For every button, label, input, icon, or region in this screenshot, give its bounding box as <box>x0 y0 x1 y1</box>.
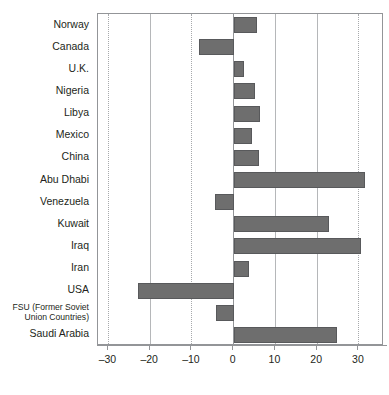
category-label: Saudi Arabia <box>0 328 89 339</box>
bar <box>234 17 257 33</box>
bar <box>234 327 338 343</box>
category-label: Kuwait <box>0 218 89 229</box>
x-tick-mark--20 <box>149 345 150 350</box>
bar <box>234 128 252 144</box>
bar <box>199 39 234 55</box>
bar <box>234 83 255 99</box>
plot-area <box>97 13 383 345</box>
plot-inner <box>98 14 382 344</box>
bar-chart: NorwayCanadaU.K.NigeriaLibyaMexicoChinaA… <box>0 0 389 395</box>
x-tick-label: 0 <box>213 353 253 365</box>
category-label: Mexico <box>0 129 89 140</box>
bar <box>138 283 233 299</box>
bar <box>234 106 260 122</box>
bar <box>234 150 259 166</box>
bar <box>234 238 361 254</box>
x-tick-label: 20 <box>296 353 336 365</box>
x-tick-label: –10 <box>171 353 211 365</box>
category-label: China <box>0 151 89 162</box>
x-axis-line <box>97 345 387 346</box>
bar <box>234 61 244 77</box>
category-label: Canada <box>0 41 89 52</box>
x-tick-mark-10 <box>274 345 275 350</box>
bar <box>215 194 234 210</box>
bar <box>216 305 234 321</box>
category-label: Venezuela <box>0 196 89 207</box>
category-label: Norway <box>0 19 89 30</box>
x-tick-mark--30 <box>107 345 108 350</box>
category-label: Iran <box>0 262 89 273</box>
x-tick-mark-0 <box>232 345 233 350</box>
x-tick-mark-20 <box>316 345 317 350</box>
x-tick-label: –30 <box>87 353 127 365</box>
category-label: Nigeria <box>0 85 89 96</box>
category-label: U.K. <box>0 63 89 74</box>
x-tick-label: 10 <box>254 353 294 365</box>
x-tick-label: –20 <box>129 353 169 365</box>
x-tick-mark--10 <box>190 345 191 350</box>
category-label: Abu Dhabi <box>0 174 89 185</box>
bar <box>234 172 366 188</box>
category-axis: NorwayCanadaU.K.NigeriaLibyaMexicoChinaA… <box>0 13 93 345</box>
gridline--30 <box>108 14 110 344</box>
x-tick-mark-30 <box>357 345 358 350</box>
category-label: USA <box>0 284 89 295</box>
category-label: Libya <box>0 107 89 118</box>
x-tick-label: 30 <box>338 353 378 365</box>
category-label: Iraq <box>0 240 89 251</box>
category-label: FSU (Former SovietUnion Countries) <box>0 302 89 322</box>
bar <box>234 216 329 232</box>
bar <box>234 261 249 277</box>
